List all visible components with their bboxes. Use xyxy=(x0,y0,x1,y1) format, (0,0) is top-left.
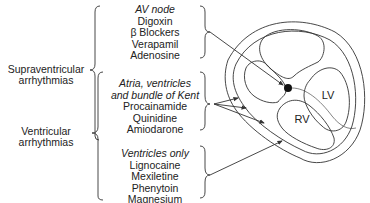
group-heading: AV node xyxy=(100,4,210,16)
lv-label: LV xyxy=(318,90,338,101)
rv-label: RV xyxy=(290,114,314,125)
drug-item: Adenosine xyxy=(100,50,210,62)
label-supraventricular: Supraventricular arrhythmias xyxy=(0,64,92,86)
group-av-node: AV node Digoxin β Blockers Verapamil Ade… xyxy=(100,4,210,62)
group-heading: Ventricles only xyxy=(100,148,210,160)
drug-item: Magnesium xyxy=(100,194,210,203)
group-heading: Atria, ventricles xyxy=(100,78,210,90)
group-ventricles-only: Ventricles only Lignocaine Mexiletine Ph… xyxy=(100,148,210,203)
group-atria-ventricles-kent: Atria, ventricles and bundle of Kent Pro… xyxy=(100,78,210,136)
label-ventricular: Ventricular arrhythmias xyxy=(0,126,92,148)
av-node-dot xyxy=(284,84,292,92)
drug-item: Amiodarone xyxy=(100,124,210,136)
